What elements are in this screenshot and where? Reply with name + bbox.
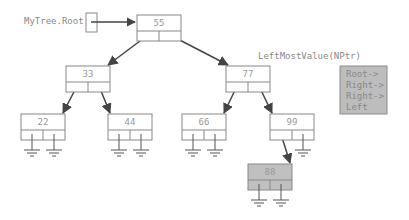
node-value: 55 <box>154 18 165 28</box>
function-call-line-2: Right-> <box>346 80 385 90</box>
function-call-title: LeftMostValue(NPtr) <box>258 51 361 61</box>
tree-node: 55 <box>137 15 181 41</box>
tree-edges <box>63 35 290 163</box>
function-call-panel: LeftMostValue(NPtr) Root-> Right-> Right… <box>258 51 387 114</box>
root-pointer: MyTree.Root <box>24 13 135 32</box>
node-value: 33 <box>83 69 94 79</box>
tree-node: 88 <box>248 164 292 206</box>
function-call-line-1: Root-> <box>346 69 379 79</box>
tree-node: 33 <box>66 66 110 92</box>
node-value: 66 <box>199 117 210 127</box>
binary-tree-diagram: MyTree.Root 5533772244669988 LeftMostVal… <box>0 0 409 220</box>
function-call-line-4: Left <box>346 102 368 112</box>
function-call-line-3: Right-> <box>346 91 385 101</box>
tree-node: 22 <box>21 114 65 156</box>
node-value: 99 <box>287 117 298 127</box>
node-value: 22 <box>38 117 49 127</box>
tree-node: 77 <box>226 66 270 92</box>
node-value: 77 <box>243 69 254 79</box>
tree-node: 44 <box>108 114 152 156</box>
tree-node: 99 <box>270 114 314 156</box>
node-value: 88 <box>265 167 276 177</box>
root-pointer-label: MyTree.Root <box>24 16 84 26</box>
tree-node: 66 <box>182 114 226 156</box>
node-value: 44 <box>125 117 136 127</box>
